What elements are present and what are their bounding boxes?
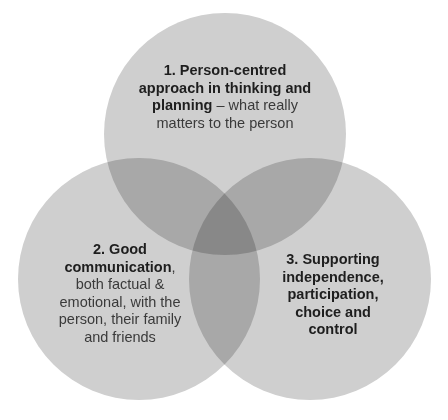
label-line: 3. Supporting xyxy=(286,251,379,267)
label-line: emotional, with the xyxy=(30,294,210,312)
circle-1-label: 1. Person-centred approach in thinking a… xyxy=(125,62,325,132)
label-line: and friends xyxy=(30,329,210,347)
label-line: approach in thinking and xyxy=(139,80,311,96)
label-line: – what really xyxy=(212,97,297,113)
label-line: both factual & xyxy=(30,276,210,294)
label-line: planning xyxy=(152,97,212,113)
label-line: independence, xyxy=(282,269,384,285)
label-line: 1. Person-centred xyxy=(164,62,287,78)
circle-3-label: 3. Supporting independence, participatio… xyxy=(258,251,408,339)
label-line: person, their family xyxy=(30,311,210,329)
circle-2-label: 2. Good communication, both factual & em… xyxy=(30,241,210,346)
label-line: communication xyxy=(64,259,171,275)
label-line: participation, xyxy=(287,286,378,302)
label-line: choice and xyxy=(295,304,371,320)
label-line: 2. Good xyxy=(93,241,147,257)
label-line: control xyxy=(308,321,357,337)
label-line: , xyxy=(172,259,176,275)
label-line: matters to the person xyxy=(125,115,325,133)
